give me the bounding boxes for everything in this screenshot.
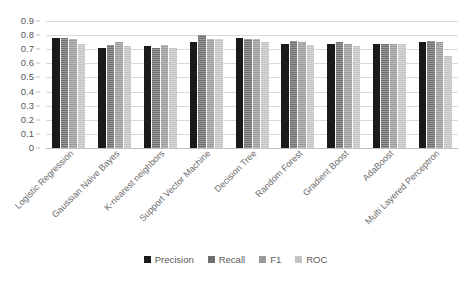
x-axis-labels: Logistic RegressionGaussian Naive BayesK… [46,149,458,244]
bar-chart: 0.90.80.70.60.50.40.30.20.10 Logistic Re… [0,0,471,285]
y-tick-mark [36,49,40,50]
y-tick-label: 0.9 [21,16,34,26]
y-tick-label: 0.3 [21,101,34,111]
y-tick-label: 0.8 [21,30,34,40]
x-tick-label-text: Gradient Boost [301,149,350,198]
plot-area [46,21,458,148]
bar [381,44,389,148]
bar [152,48,160,148]
chart-legend: PrecisionRecallF1ROC [0,255,471,265]
bar [298,42,306,148]
legend-label: Precision [155,255,194,265]
y-tick-mark [36,91,40,92]
bar [281,44,289,148]
y-tick-label: 0.1 [21,129,34,139]
legend-item[interactable]: Precision [144,255,194,265]
y-axis: 0.90.80.70.60.50.40.30.20.10 [0,21,40,148]
bar [327,44,335,148]
bar [190,42,198,148]
x-tick-label-text: Decision Tree [213,149,258,194]
bar [69,39,77,148]
bar [207,39,215,148]
y-tick-label: 0.7 [21,44,34,54]
bar [253,39,261,148]
y-tick-mark [36,148,40,149]
bar [436,42,444,148]
legend-swatch-icon [259,256,266,263]
bar [198,35,206,148]
bar [98,48,106,148]
legend-label: ROC [306,255,327,265]
bar [244,39,252,148]
legend-item[interactable]: Recall [208,255,245,265]
bar-group [46,21,92,148]
y-tick-mark [36,35,40,36]
legend-swatch-icon [208,256,215,263]
bar [144,46,152,148]
bar [107,45,115,148]
bar [61,38,69,148]
x-tick-label-text: Random Forest [254,149,304,199]
legend-item[interactable]: ROC [295,255,327,265]
legend-label: F1 [270,255,281,265]
y-tick-mark [36,133,40,134]
y-tick-mark [36,21,40,22]
y-tick-mark [36,119,40,120]
legend-swatch-icon [295,256,302,263]
y-tick-label: 0 [29,143,34,153]
y-tick-mark [36,77,40,78]
y-tick-label: 0.5 [21,73,34,83]
y-tick-mark [36,105,40,106]
bar [390,44,398,148]
bar [290,41,298,148]
bar [344,44,352,148]
legend-swatch-icon [144,256,151,263]
bar-groups [46,21,458,148]
y-tick-mark [36,63,40,64]
bar [373,44,381,148]
bar [419,42,427,148]
bar [52,38,60,148]
x-tick-label-text: AdaBoost [362,149,396,183]
y-tick-label: 0.4 [21,87,34,97]
legend-item[interactable]: F1 [259,255,281,265]
bar [236,38,244,148]
y-tick-label: 0.2 [21,115,34,125]
bar [336,42,344,148]
bar [427,41,435,148]
y-tick-label: 0.6 [21,59,34,69]
legend-label: Recall [219,255,245,265]
